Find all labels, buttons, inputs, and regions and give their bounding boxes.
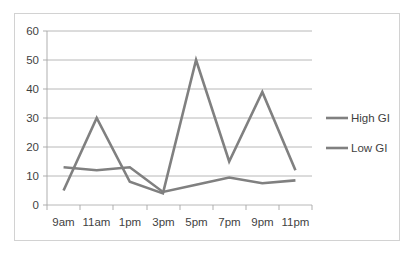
x-tick-labels: 9am 11am 1pm 3pm 5pm 7pm 9pm 11pm — [52, 216, 309, 228]
data-series — [64, 60, 296, 193]
legend-label-low-gi: Low GI — [351, 142, 387, 154]
y-tick-label-20: 20 — [26, 141, 39, 153]
chart-legend: High GI Low GI — [326, 112, 390, 154]
legend-label-high-gi: High GI — [351, 112, 390, 124]
x-tick-label-11am: 11am — [83, 216, 111, 228]
x-tick-marks — [47, 205, 312, 210]
x-tick-label-11pm: 11pm — [282, 216, 310, 228]
x-tick-label-3pm: 3pm — [152, 216, 174, 228]
y-tick-label-10: 10 — [26, 170, 39, 182]
line-chart-widget: 60 50 40 30 20 10 0 9am 11am 1pm 3pm 5p — [0, 0, 416, 260]
legend-entry-high-gi[interactable]: High GI — [326, 112, 390, 124]
x-tick-label-5pm: 5pm — [185, 216, 207, 228]
chart-plot-area: 60 50 40 30 20 10 0 9am 11am 1pm 3pm 5p — [0, 0, 416, 260]
y-tick-label-50: 50 — [26, 54, 39, 66]
y-tick-labels: 60 50 40 30 20 10 0 — [26, 25, 39, 211]
y-tick-label-60: 60 — [26, 25, 39, 37]
y-tick-label-30: 30 — [26, 112, 39, 124]
x-tick-label-9am: 9am — [52, 216, 74, 228]
x-tick-label-7pm: 7pm — [218, 216, 240, 228]
y-tick-label-0: 0 — [33, 199, 39, 211]
x-tick-label-1pm: 1pm — [119, 216, 141, 228]
x-tick-label-9pm: 9pm — [251, 216, 273, 228]
legend-entry-low-gi[interactable]: Low GI — [326, 142, 387, 154]
series-line-high-gi — [64, 60, 296, 193]
y-tick-label-40: 40 — [26, 83, 39, 95]
series-line-low-gi — [64, 167, 296, 192]
y-tick-marks — [43, 31, 47, 205]
